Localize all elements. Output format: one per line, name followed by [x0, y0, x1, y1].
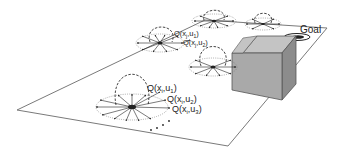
q-learning-diagram: Goal: [0, 0, 349, 153]
obstacle-box: [232, 36, 296, 100]
diagram-canvas: Goal: [0, 0, 349, 153]
q-label-upper-2: Q(xj,u2): [183, 38, 208, 48]
goal-label: Goal: [300, 24, 321, 35]
